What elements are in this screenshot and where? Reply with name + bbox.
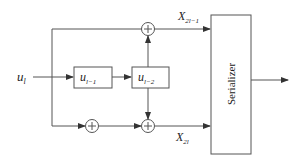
encoder-diagram: ul ul−1 ul−2 X2l−1 X2l Serializer [0, 0, 304, 164]
adder-bottom-right [142, 120, 155, 133]
delay-2-label: ul−2 [138, 70, 155, 86]
delay-1-label: ul−1 [80, 70, 96, 86]
adder-bottom-left [86, 120, 99, 133]
serializer-label: Serializer [225, 63, 237, 105]
output-label-odd: X2l−1 [177, 9, 199, 25]
adder-top [142, 23, 155, 36]
output-label-even: X2l [175, 130, 189, 146]
input-label: ul [17, 69, 27, 86]
